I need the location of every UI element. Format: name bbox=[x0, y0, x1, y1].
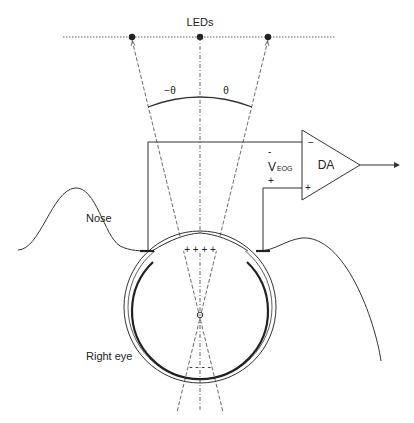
amp-plus-label: + bbox=[305, 182, 311, 193]
amplifier-label: DA bbox=[318, 158, 335, 172]
leds-label: LEDs bbox=[187, 16, 214, 28]
output-arrow-icon bbox=[394, 162, 400, 168]
veog-label: V bbox=[268, 160, 276, 174]
right-eye-label: Right eye bbox=[86, 350, 132, 362]
pos-theta-label: θ bbox=[223, 85, 229, 96]
veog-minus-label: - bbox=[268, 146, 271, 157]
veog-sub-label: EOG bbox=[277, 165, 293, 172]
led-right-icon bbox=[265, 34, 271, 40]
neg-theta-label: −θ bbox=[164, 85, 176, 96]
gaze-line-left bbox=[132, 40, 223, 412]
led-left-icon bbox=[129, 34, 135, 40]
amp-minus-label: − bbox=[308, 137, 314, 148]
face-profile-right bbox=[258, 238, 381, 361]
retina-charges: - - - - bbox=[189, 361, 211, 372]
veog-plus-label: + bbox=[268, 175, 274, 186]
wire-positive bbox=[263, 188, 302, 250]
cornea-charges: + + + + bbox=[184, 244, 216, 255]
eog-diagram: LEDs −θ θ DA − + - V EOG + Nose + + + + bbox=[0, 0, 414, 423]
wire-negative bbox=[148, 142, 302, 250]
nose-label: Nose bbox=[86, 212, 112, 224]
face-profile-left bbox=[18, 188, 152, 251]
